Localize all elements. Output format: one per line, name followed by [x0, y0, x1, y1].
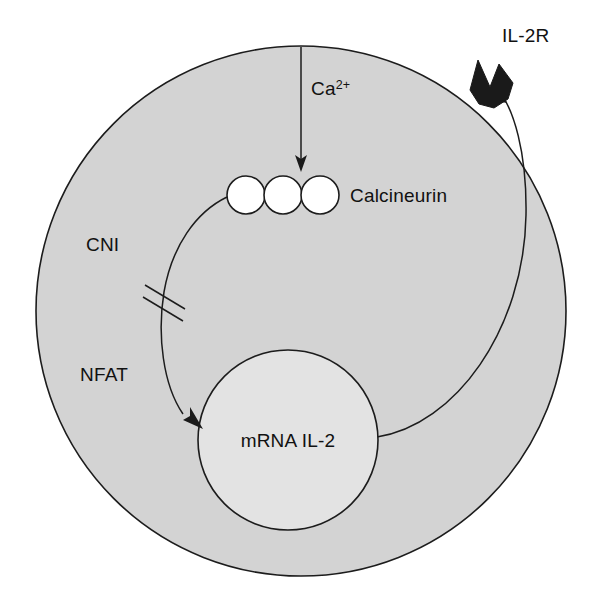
il2-receptor-label: IL-2R — [502, 25, 549, 46]
calcium-label-superscript: 2+ — [336, 78, 351, 92]
calcineurin-subunit — [227, 176, 265, 214]
il2-receptor-icon — [470, 60, 513, 108]
calcineurin-subunit — [301, 176, 339, 214]
cell-signaling-diagram: mRNA IL-2 Ca2+ CNI NFAT Calcineurin IL-2… — [0, 0, 601, 602]
calcineurin-subunit — [264, 176, 302, 214]
nfat-label: NFAT — [80, 364, 128, 385]
calcium-label-text: Ca — [311, 78, 336, 99]
calcineurin-label: Calcineurin — [350, 185, 447, 206]
nucleus-label: mRNA IL-2 — [241, 430, 336, 451]
cni-label: CNI — [86, 234, 119, 255]
diagram-root: mRNA IL-2 Ca2+ CNI NFAT Calcineurin IL-2… — [0, 0, 601, 602]
